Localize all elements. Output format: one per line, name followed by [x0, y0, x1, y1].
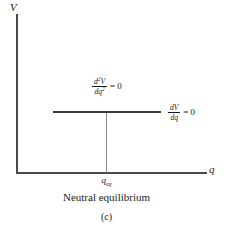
first-derivative-value: 0	[190, 108, 195, 117]
first-derivative-numerator: dV	[168, 104, 180, 113]
figure-caption: Neutral equilibrium	[0, 192, 220, 203]
q-eq-tick-label: qeq	[0, 176, 220, 185]
second-derivative-denominator: dq2	[92, 87, 106, 95]
second-derivative-value: 0	[117, 82, 122, 91]
q-eq-dropline	[106, 113, 107, 173]
potential-curve-plateau	[53, 111, 161, 113]
first-derivative-fraction: dV dq	[168, 104, 180, 122]
first-derivative-annotation: dV dq = 0	[168, 104, 195, 122]
first-derivative-relation: =	[183, 108, 188, 117]
figure-neutral-equilibrium: V q d2V dq2 = 0 dV dq = 0 qeq Neutral eq…	[0, 0, 227, 238]
second-derivative-annotation: d2V dq2 = 0	[92, 78, 122, 96]
q-eq-subscript: eq	[106, 181, 112, 187]
q-axis-label: q	[209, 164, 215, 175]
second-derivative-relation: =	[110, 82, 115, 91]
v-axis-line	[16, 14, 18, 174]
second-derivative-denominator-exponent: 2	[102, 85, 105, 91]
first-derivative-denominator: dq	[168, 113, 180, 121]
second-derivative-fraction: d2V dq2	[92, 78, 107, 96]
q-axis-line	[16, 172, 207, 174]
panel-label: (c)	[0, 212, 220, 222]
second-derivative-denominator-dq: dq	[94, 87, 102, 96]
v-axis-label: V	[10, 2, 17, 13]
